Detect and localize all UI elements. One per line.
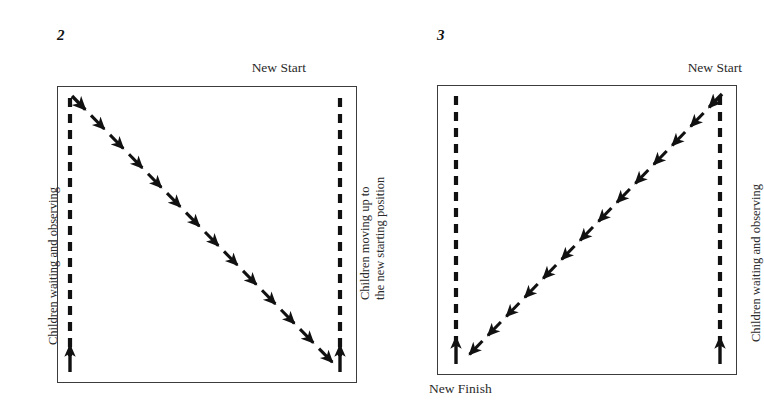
panel-3-box [437,85,737,375]
panel-2-box [57,86,357,383]
panel-2-right-vertical-line2: the new starting position [373,160,388,300]
panel-2-right-vertical-line1: Children moving up to [358,160,373,300]
panel-2-number: 2 [57,28,65,43]
panel-2-right-vertical-label: Children moving up to the new starting p… [358,160,388,300]
panel-3-new-start-label: New Start [688,60,742,76]
panel-3-right-vertical-label: Children waiting and observing [749,184,764,342]
panel-2-new-start-label: New Start [252,60,306,76]
panel-3-number: 3 [437,28,445,43]
panel-2-left-vertical-label: Children waiting and observing [46,187,61,345]
panel-3-new-finish-label: New Finish [429,381,492,397]
